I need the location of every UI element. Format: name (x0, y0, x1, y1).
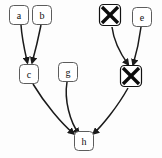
graph-canvas: abecgh (0, 0, 162, 158)
node-label-e: e (140, 12, 145, 23)
edge-x1-to-x2 (112, 27, 129, 65)
node-g[interactable]: g (59, 63, 78, 82)
graph-diagram: abecgh (0, 0, 162, 158)
node-x2[interactable] (121, 66, 142, 87)
edge-e-to-x2 (133, 27, 141, 65)
node-label-a: a (17, 10, 22, 21)
node-label-c: c (27, 69, 32, 80)
edge-b-to-c (32, 25, 41, 63)
node-layer: abecgh (10, 5, 152, 151)
edge-g-to-h (66, 82, 79, 134)
node-b[interactable]: b (33, 6, 52, 25)
edge-x2-to-h (93, 88, 128, 134)
node-h[interactable]: h (75, 132, 94, 151)
node-e[interactable]: e (133, 8, 152, 27)
edge-a-to-c (21, 25, 28, 63)
node-label-b: b (40, 10, 45, 21)
node-a[interactable]: a (10, 6, 29, 25)
node-label-g: g (66, 67, 71, 78)
node-label-h: h (82, 136, 87, 147)
node-x1[interactable] (100, 5, 121, 26)
node-c[interactable]: c (20, 65, 39, 84)
